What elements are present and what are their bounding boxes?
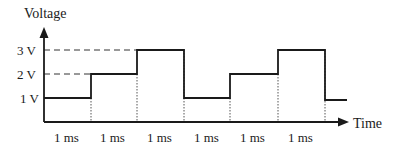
voltage-step-diagram: Voltage Time 3 V 2 V 1 V 1 ms 1 ms 1 ms … — [0, 0, 406, 153]
x-interval-label: 1 ms — [194, 131, 219, 144]
y-axis-arrow-icon — [40, 27, 49, 38]
x-axis-arrow-icon — [338, 118, 349, 127]
x-axis-label: Time — [353, 117, 382, 131]
x-interval-label: 1 ms — [288, 131, 313, 144]
y-tick-2v: 2 V — [17, 68, 36, 81]
x-interval-label: 1 ms — [147, 131, 172, 144]
y-tick-3v: 3 V — [17, 44, 36, 57]
voltage-waveform — [44, 50, 347, 100]
interval-dotted-lines — [91, 50, 325, 122]
x-interval-label: 1 ms — [54, 131, 79, 144]
y-axis-label: Voltage — [24, 7, 67, 21]
x-interval-label: 1 ms — [100, 131, 125, 144]
x-interval-label: 1 ms — [240, 131, 265, 144]
y-tick-1v: 1 V — [20, 92, 39, 105]
